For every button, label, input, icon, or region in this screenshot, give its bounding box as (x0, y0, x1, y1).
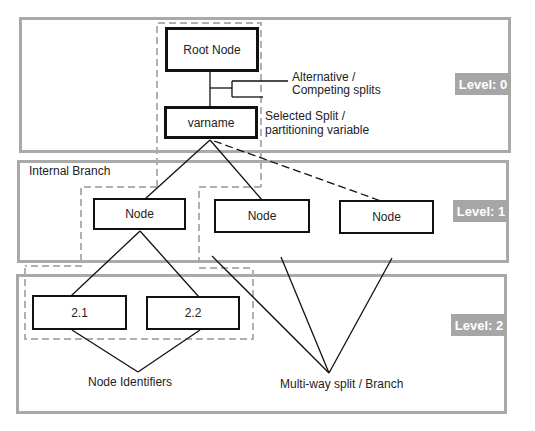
level-0-badge: Level: 0 (455, 73, 511, 95)
level-1-node-left: Node (93, 198, 186, 230)
level-1-node-right: Node (339, 200, 434, 234)
level-2-badge: Level: 2 (451, 314, 507, 336)
varname-node: varname (164, 106, 258, 139)
selected-split-label-line2: partitioning variable (265, 124, 369, 137)
selected-split-label-line1: Selected Split / (265, 110, 345, 123)
internal-branch-label: Internal Branch (29, 165, 110, 178)
node-identifiers-label: Node Identifiers (88, 376, 172, 389)
root-node: Root Node (165, 27, 259, 72)
level-2-node-2-2: 2.2 (146, 296, 240, 330)
multiway-split-label: Multi-way split / Branch (280, 378, 403, 391)
level-2-node-2-1: 2.1 (32, 295, 127, 330)
level-1-node-middle: Node (214, 199, 310, 233)
level-1-badge: Level: 1 (453, 200, 509, 222)
alternative-splits-label-line2: Competing splits (292, 84, 381, 97)
